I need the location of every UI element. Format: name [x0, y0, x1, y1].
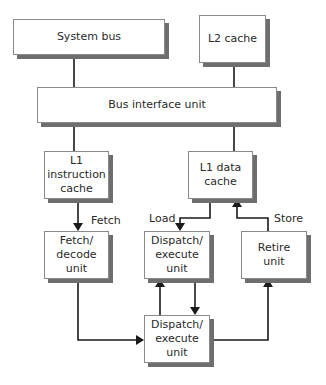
store-edge-label: Store [274, 212, 303, 225]
l1-data-cache-label: L1 data cache [200, 161, 241, 189]
dispatch-execute-unit-top-label: Dispatch/ execute unit [151, 234, 203, 276]
fetch-decode-unit-label: Fetch/ decode unit [45, 234, 108, 276]
dispatch-execute-unit-bottom-label: Dispatch/ execute unit [151, 318, 203, 360]
l2-cache-label: L2 cache [208, 32, 257, 46]
retire-unit-box: Retire unit [241, 231, 307, 279]
system-bus-label: System bus [57, 30, 121, 44]
bus-interface-unit-label: Bus interface unit [108, 98, 206, 112]
retire-unit-label: Retire unit [258, 241, 290, 269]
fetch-decode-unit-box: Fetch/ decode unit [44, 231, 109, 279]
fetch-edge-label: Fetch [91, 214, 121, 227]
l1-instruction-cache-label: L1 instruction cache [45, 154, 108, 196]
bus-interface-unit-box: Bus interface unit [37, 87, 277, 123]
l2-cache-box: L2 cache [199, 15, 266, 63]
l1-data-cache-box: L1 data cache [188, 151, 253, 199]
system-bus-box: System bus [13, 19, 165, 55]
dispatch-execute-unit-top-box: Dispatch/ execute unit [144, 231, 210, 279]
l1-instruction-cache-box: L1 instruction cache [44, 151, 109, 199]
dispatch-execute-unit-bottom-box: Dispatch/ execute unit [144, 315, 210, 363]
load-edge-label: Load [149, 212, 175, 225]
